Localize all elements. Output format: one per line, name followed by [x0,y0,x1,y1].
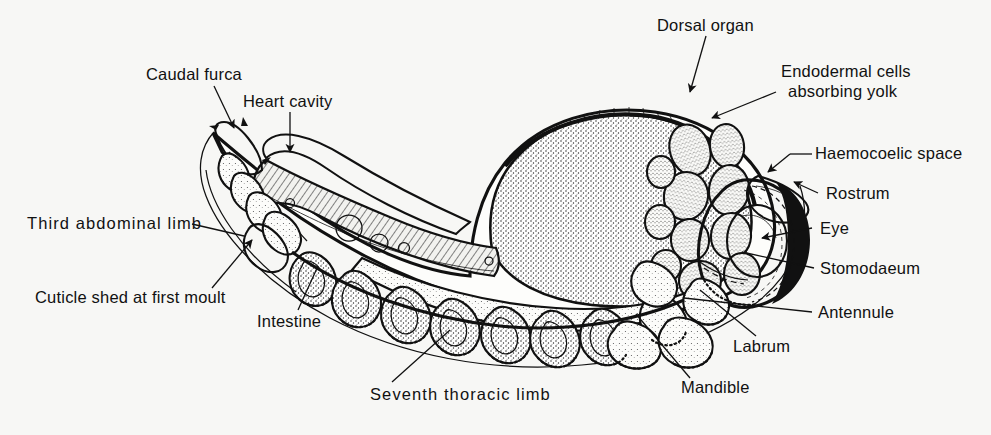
endodermal-cell [647,156,675,188]
caudal-furca-spine-1 [209,125,219,130]
label-haemocoelic-space: Haemocoelic space [815,144,962,162]
figure-root: Caudal furca Heart cavity Dorsal organ E… [0,0,991,435]
leader-haemocoelic-arrow [768,154,790,172]
endodermal-cell [723,252,760,295]
label-seventh-thoracic-limb: Seventh thoracic limb [370,385,551,403]
label-mandible: Mandible [681,378,750,396]
label-intestine: Intestine [257,312,321,330]
label-cuticle-shed: Cuticle shed at first moult [35,288,226,306]
larva-diagram: Caudal furca Heart cavity Dorsal organ E… [0,0,991,435]
label-endodermal-cells-line1: Endodermal cells [781,62,911,80]
label-dorsal-organ: Dorsal organ [657,16,754,34]
endodermal-cell [645,205,675,239]
label-eye: Eye [820,219,849,237]
label-stomodaeum: Stomodaeum [820,259,920,277]
label-caudal-furca: Caudal furca [146,65,243,83]
leader-endodermal-cells [712,92,776,118]
abdominal-limb [263,212,301,255]
label-rostrum: Rostrum [826,184,890,202]
leader-rostrum [794,182,818,193]
label-labrum: Labrum [733,337,790,355]
label-heart-cavity: Heart cavity [243,92,333,110]
label-endodermal-cells-line2: absorbing yolk [788,82,898,100]
leader-dorsal-organ [690,36,706,92]
caudal-furca-spine-2 [241,117,248,126]
label-third-abdominal-limb: Third abdominal limb [27,214,202,232]
leader-cuticle-shed [212,240,252,288]
label-antennule: Antennule [818,303,894,321]
